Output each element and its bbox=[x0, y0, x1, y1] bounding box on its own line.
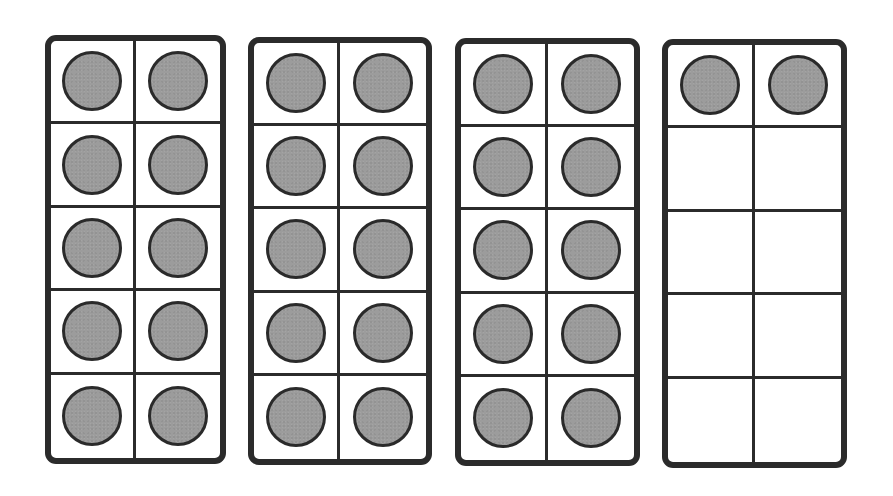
frame-cell bbox=[755, 295, 842, 378]
counter-dot-icon bbox=[148, 301, 208, 361]
frame-cell bbox=[668, 128, 755, 211]
frame-cell bbox=[254, 209, 340, 292]
counter-dot-icon bbox=[266, 387, 326, 447]
frame-cell bbox=[254, 293, 340, 376]
frame-cell bbox=[548, 210, 635, 293]
counter-dot-icon bbox=[473, 304, 533, 364]
counter-dot-icon bbox=[473, 220, 533, 280]
counter-dot-icon bbox=[62, 386, 122, 446]
frame-cell bbox=[254, 43, 340, 126]
frame-cell bbox=[668, 295, 755, 378]
frame-cell bbox=[755, 128, 842, 211]
frame-cell bbox=[668, 45, 755, 128]
frame-cell bbox=[51, 291, 136, 374]
ten-frame-1 bbox=[45, 35, 226, 464]
counter-dot-icon bbox=[561, 220, 621, 280]
frame-cell bbox=[755, 45, 842, 128]
frame-cell bbox=[136, 375, 221, 458]
frame-cell bbox=[668, 212, 755, 295]
counter-dot-icon bbox=[62, 51, 122, 111]
ten-frame-3 bbox=[455, 38, 640, 466]
frame-cell bbox=[461, 294, 548, 377]
counter-dot-icon bbox=[561, 304, 621, 364]
counter-dot-icon bbox=[353, 136, 413, 196]
counter-dot-icon bbox=[266, 219, 326, 279]
ten-frame-2 bbox=[248, 37, 432, 465]
counter-dot-icon bbox=[266, 136, 326, 196]
counter-dot-icon bbox=[473, 388, 533, 448]
frame-cell bbox=[51, 41, 136, 124]
frame-cell bbox=[136, 291, 221, 374]
frame-cell bbox=[340, 293, 426, 376]
counter-dot-icon bbox=[561, 137, 621, 197]
frame-cell bbox=[461, 210, 548, 293]
counter-dot-icon bbox=[62, 301, 122, 361]
counter-dot-icon bbox=[561, 54, 621, 114]
counter-dot-icon bbox=[353, 53, 413, 113]
frame-cell bbox=[136, 41, 221, 124]
frame-cell bbox=[340, 126, 426, 209]
frame-cell bbox=[755, 379, 842, 462]
frame-cell bbox=[136, 208, 221, 291]
frame-cell bbox=[51, 208, 136, 291]
counter-dot-icon bbox=[148, 135, 208, 195]
counter-dot-icon bbox=[62, 218, 122, 278]
frame-cell bbox=[340, 376, 426, 459]
counter-dot-icon bbox=[561, 388, 621, 448]
counter-dot-icon bbox=[353, 387, 413, 447]
frame-cell bbox=[548, 377, 635, 460]
frame-cell bbox=[254, 126, 340, 209]
frame-cell bbox=[254, 376, 340, 459]
counter-dot-icon bbox=[353, 219, 413, 279]
counter-dot-icon bbox=[266, 53, 326, 113]
frame-cell bbox=[461, 377, 548, 460]
frame-cell bbox=[136, 124, 221, 207]
counter-dot-icon bbox=[768, 55, 828, 115]
frame-cell bbox=[548, 44, 635, 127]
ten-frame-4 bbox=[662, 39, 847, 468]
frame-cell bbox=[668, 379, 755, 462]
frame-cell bbox=[51, 375, 136, 458]
counter-dot-icon bbox=[680, 55, 740, 115]
frame-cell bbox=[461, 127, 548, 210]
counter-dot-icon bbox=[266, 303, 326, 363]
frame-cell bbox=[461, 44, 548, 127]
counter-dot-icon bbox=[148, 386, 208, 446]
counter-dot-icon bbox=[473, 54, 533, 114]
frame-cell bbox=[548, 127, 635, 210]
frame-cell bbox=[755, 212, 842, 295]
counter-dot-icon bbox=[473, 137, 533, 197]
frame-cell bbox=[548, 294, 635, 377]
frame-cell bbox=[340, 209, 426, 292]
frame-cell bbox=[51, 124, 136, 207]
counter-dot-icon bbox=[62, 135, 122, 195]
frame-cell bbox=[340, 43, 426, 126]
counter-dot-icon bbox=[353, 303, 413, 363]
counter-dot-icon bbox=[148, 218, 208, 278]
counter-dot-icon bbox=[148, 51, 208, 111]
